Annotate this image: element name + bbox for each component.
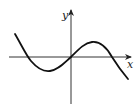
y-axis-label: y — [61, 9, 69, 22]
function-graph-figure: y x — [0, 0, 138, 107]
x-axis-label: x — [127, 58, 134, 71]
graph-canvas: y x — [0, 0, 138, 107]
